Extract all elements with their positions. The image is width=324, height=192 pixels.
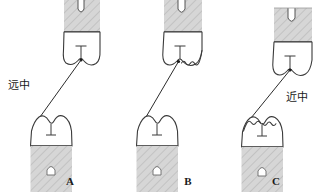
upper-molar-a-root-notch	[78, 0, 84, 12]
panel-letter-c: C	[266, 175, 286, 187]
label-distal: 远中	[8, 76, 30, 92]
panel-letter-b: B	[178, 175, 198, 187]
panel-b	[137, 0, 203, 192]
lower-molar-a-root-notch	[47, 167, 55, 176]
upper-molar-c-crown	[273, 42, 312, 75]
lower-molar-b	[137, 116, 179, 192]
dental-occlusion-figure	[0, 0, 324, 192]
contact-line-c	[251, 70, 290, 118]
upper-molar-a	[63, 0, 100, 65]
lower-molar-b-root-notch	[153, 167, 161, 176]
lower-molar-c-root-notch	[258, 168, 266, 177]
contact-line-a	[40, 60, 81, 117]
panel-letter-a: A	[60, 175, 80, 187]
upper-molar-b	[163, 0, 202, 65]
panel-a	[31, 0, 101, 192]
upper-molar-b-root-notch	[178, 0, 185, 12]
upper-molar-c	[273, 8, 312, 75]
upper-molar-b-crown	[163, 32, 202, 65]
upper-molar-c-root-notch	[288, 8, 295, 21]
contact-line-b	[146, 62, 179, 118]
label-mesial: 近中	[286, 88, 308, 104]
